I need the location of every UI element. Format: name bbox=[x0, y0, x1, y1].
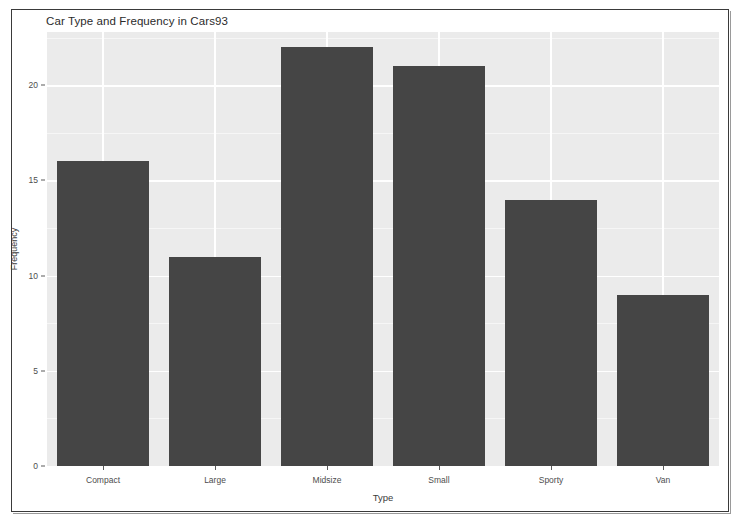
y-tick-label: 15 bbox=[29, 175, 38, 185]
y-tick-mark bbox=[41, 466, 45, 467]
y-tick-label: 0 bbox=[33, 461, 38, 471]
plot-panel bbox=[47, 32, 719, 466]
y-tick-label: 5 bbox=[33, 366, 38, 376]
y-tick-mark bbox=[41, 370, 45, 371]
gridline-minor-horizontal bbox=[47, 133, 719, 134]
x-tick-label-large: Large bbox=[204, 475, 226, 485]
bar-midsize bbox=[281, 47, 373, 466]
chart-title: Car Type and Frequency in Cars93 bbox=[46, 15, 228, 27]
x-tick-label-compact: Compact bbox=[86, 475, 120, 485]
bar-van bbox=[617, 295, 709, 466]
bar-sporty bbox=[505, 200, 597, 466]
chart-figure: Car Type and Frequency in Cars93 0510152… bbox=[0, 0, 740, 523]
x-tick-mark bbox=[551, 466, 552, 470]
y-tick-mark bbox=[41, 85, 45, 86]
x-tick-label-van: Van bbox=[656, 475, 671, 485]
bar-small bbox=[393, 66, 485, 466]
x-tick-mark bbox=[327, 466, 328, 470]
y-axis-label: Frequency bbox=[9, 228, 19, 271]
y-axis: 05101520 bbox=[0, 32, 47, 466]
bar-large bbox=[169, 257, 261, 466]
x-tick-label-sporty: Sporty bbox=[539, 475, 564, 485]
y-tick-mark bbox=[41, 180, 45, 181]
gridline-minor-horizontal bbox=[47, 38, 719, 39]
x-tick-mark bbox=[215, 466, 216, 470]
y-tick-mark bbox=[41, 275, 45, 276]
gridline-major-horizontal bbox=[47, 85, 719, 86]
x-tick-label-small: Small bbox=[428, 475, 449, 485]
x-tick-mark bbox=[663, 466, 664, 470]
x-axis-label: Type bbox=[373, 492, 394, 503]
x-tick-mark bbox=[103, 466, 104, 470]
bar-compact bbox=[57, 161, 149, 466]
x-tick-label-midsize: Midsize bbox=[313, 475, 342, 485]
x-tick-mark bbox=[439, 466, 440, 470]
y-tick-label: 20 bbox=[29, 80, 38, 90]
y-tick-label: 10 bbox=[29, 271, 38, 281]
